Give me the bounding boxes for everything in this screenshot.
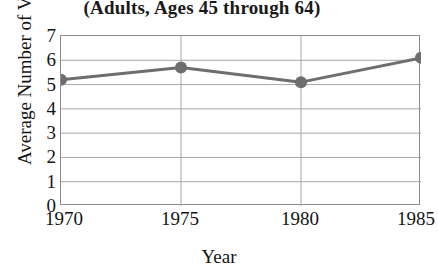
- chart-title: (Adults, Ages 45 through 64): [52, 0, 352, 19]
- y-tick-label: 5: [30, 74, 56, 93]
- chart-screenshot: (Adults, Ages 45 through 64) Average Num…: [0, 0, 438, 280]
- y-tick-label: 4: [30, 98, 56, 117]
- line-chart-plot: [61, 36, 421, 206]
- data-point-marker: [295, 76, 307, 88]
- y-axis-tick-labels: 76543210: [26, 35, 56, 205]
- x-tick-label: 1980: [281, 209, 319, 228]
- y-tick-label: 2: [30, 147, 56, 166]
- x-axis-title: Year: [0, 246, 438, 268]
- x-tick-label: 1985: [397, 209, 435, 228]
- data-point-marker: [415, 52, 421, 64]
- data-point-marker: [61, 74, 67, 86]
- plot-area: [60, 35, 420, 205]
- horizontal-gridlines: [61, 60, 421, 181]
- y-tick-label: 7: [30, 26, 56, 45]
- y-tick-label: 1: [30, 171, 56, 190]
- y-tick-label: 6: [30, 50, 56, 69]
- vertical-gridlines: [181, 36, 301, 206]
- y-tick-label: 3: [30, 123, 56, 142]
- x-axis-tick-labels: 1970197519801985: [0, 209, 438, 235]
- data-series-line: [61, 58, 421, 82]
- data-point-marker: [175, 62, 187, 74]
- x-tick-label: 1970: [45, 209, 83, 228]
- x-tick-label: 1975: [161, 209, 199, 228]
